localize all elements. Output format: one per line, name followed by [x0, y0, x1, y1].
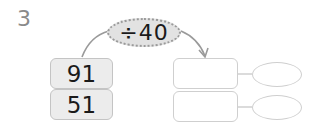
operation-label: ÷40	[119, 20, 168, 45]
dividend-box-1: 91	[50, 58, 113, 89]
dividend-value: 51	[67, 92, 96, 118]
quotient-answer-box-1[interactable]	[173, 58, 238, 89]
remainder-answer-oval-2[interactable]	[252, 95, 302, 120]
remainder-answer-oval-1[interactable]	[252, 62, 302, 87]
dividend-value: 91	[67, 61, 96, 87]
dividend-box-2: 51	[50, 89, 113, 120]
quotient-answer-box-2[interactable]	[173, 91, 238, 122]
operation-bubble: ÷40	[107, 18, 181, 47]
